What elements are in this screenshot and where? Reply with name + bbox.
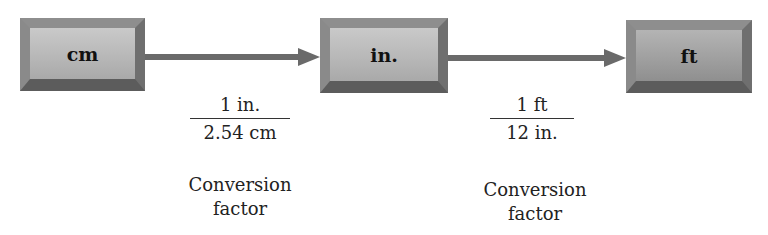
conversion-fraction-cm-in: 1 in. 2.54 cm xyxy=(190,94,290,143)
conversion-caption-cm-in: Conversion factor xyxy=(160,173,320,221)
fraction-denominator: 12 in. xyxy=(490,119,574,143)
arrow-cm-to-in-head-icon xyxy=(298,48,320,66)
arrow-cm-to-in-shaft xyxy=(145,54,300,60)
caption-line-1: Conversion xyxy=(160,173,320,197)
fraction-numerator: 1 in. xyxy=(190,94,290,119)
node-label-cm: cm xyxy=(67,43,99,65)
caption-line-2: factor xyxy=(160,197,320,221)
node-label-in: in. xyxy=(370,44,398,66)
node-face: ft xyxy=(636,30,742,81)
node-face: in. xyxy=(330,28,438,81)
fraction-numerator: 1 ft xyxy=(490,94,574,119)
conversion-fraction-in-ft: 1 ft 12 in. xyxy=(490,94,574,143)
node-face: cm xyxy=(30,28,135,79)
conversion-caption-in-ft: Conversion factor xyxy=(455,178,615,226)
arrow-in-to-ft-head-icon xyxy=(604,49,626,67)
node-cm: cm xyxy=(20,18,145,91)
arrow-in-to-ft-shaft xyxy=(448,55,606,61)
node-ft: ft xyxy=(626,20,752,93)
caption-line-1: Conversion xyxy=(455,178,615,202)
caption-line-2: factor xyxy=(455,202,615,226)
node-in: in. xyxy=(320,18,448,93)
fraction-denominator: 2.54 cm xyxy=(190,119,290,143)
node-label-ft: ft xyxy=(681,45,698,67)
